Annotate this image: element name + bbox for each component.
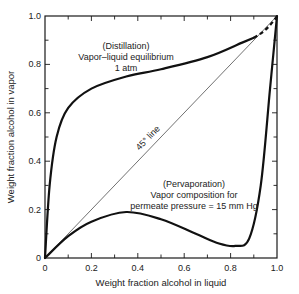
distillation-label-line2: Vapor–liquid equilibrium (78, 52, 173, 62)
x-tick-label: 0.4 (132, 263, 145, 273)
y-tick-label: 0.2 (28, 205, 41, 215)
distillation-label-line3: 1 atm (115, 63, 138, 73)
y-tick-labels: 0 0.2 0.4 0.6 0.8 1.0 (28, 11, 41, 263)
y-tick-label: 0.6 (28, 108, 41, 118)
pervaporation-annotation: (Pervaporation) Vapor composition for pe… (130, 179, 257, 211)
x-tick-label: 0.8 (224, 263, 237, 273)
y-tick-label: 1.0 (28, 11, 41, 21)
x-tick-label: 1.0 (271, 263, 284, 273)
pervaporation-label-line1: (Pervaporation) (163, 179, 225, 189)
y-tick-label: 0.4 (28, 156, 41, 166)
x-tick-label: 0.6 (178, 263, 191, 273)
pervaporation-label-line2: Vapor composition for (151, 190, 238, 200)
vle-chart: 0 0.2 0.4 0.6 0.8 1.0 0 0.2 0.4 0.6 0.8 … (0, 0, 299, 294)
y-tick-label: 0 (36, 253, 41, 263)
x-tick-label: 0 (42, 263, 47, 273)
diagonal-label: 45° line (134, 124, 162, 153)
y-axis-title: Weight fraction alcohol in vapor (5, 71, 16, 203)
y-tick-label: 0.8 (28, 59, 41, 69)
x-tick-labels: 0 0.2 0.4 0.6 0.8 1.0 (42, 263, 283, 273)
distillation-annotation: (Distillation) Vapor–liquid equilibrium … (78, 41, 173, 73)
distillation-label-line1: (Distillation) (102, 41, 149, 51)
x-axis-title: Weight fraction alcohol in liquid (96, 277, 227, 288)
x-tick-label: 0.2 (85, 263, 98, 273)
pervaporation-label-line3: permeate pressure = 15 mm Hg (130, 201, 257, 211)
